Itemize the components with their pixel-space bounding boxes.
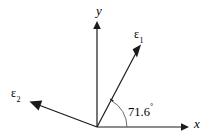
epsilon-2-vector-line: [40, 106, 97, 128]
diagram-canvas: [0, 0, 206, 140]
vector-diagram: y x ε1 ε2 71.6°: [0, 0, 206, 140]
angle-arc: [111, 101, 127, 128]
epsilon-2-subscript: 2: [17, 95, 21, 104]
epsilon-2-arrowhead-icon: [30, 101, 43, 111]
angle-value-label: 71.6°: [128, 105, 153, 119]
angle-number: 71.6: [128, 105, 150, 119]
epsilon-2-symbol: ε: [11, 86, 16, 100]
epsilon-1-symbol: ε: [134, 27, 139, 41]
degree-symbol-icon: °: [150, 102, 153, 111]
y-axis-arrowhead-icon: [93, 21, 101, 29]
epsilon-2-label: ε2: [11, 87, 20, 102]
x-axis-arrowhead-icon: [181, 123, 189, 131]
epsilon-1-arrowhead-icon: [133, 45, 141, 58]
epsilon-1-label: ε1: [134, 28, 143, 43]
y-axis-label: y: [96, 4, 102, 17]
epsilon-1-subscript: 1: [140, 36, 144, 45]
x-axis-label: x: [194, 117, 200, 130]
